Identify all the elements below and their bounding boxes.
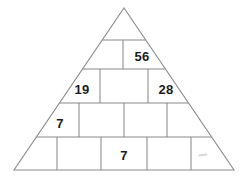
pyramid-cell-r2c2[interactable]: 56 xyxy=(135,50,150,63)
pyramid-figure: 56192877 xyxy=(0,0,248,178)
pyramid-cell-r5c3[interactable]: 7 xyxy=(120,149,127,162)
pyramid-cell-r3c3[interactable]: 28 xyxy=(159,83,174,96)
pyramid-cell-r4c1[interactable]: 7 xyxy=(56,117,63,130)
pyramid-outline xyxy=(14,8,234,170)
pyramid-cell-r3c1[interactable]: 19 xyxy=(75,83,90,96)
